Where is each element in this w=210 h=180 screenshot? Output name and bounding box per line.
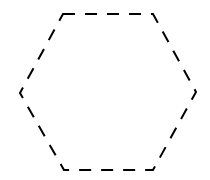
diagram-canvas — [0, 0, 210, 180]
dashed-hexagon — [20, 14, 196, 170]
